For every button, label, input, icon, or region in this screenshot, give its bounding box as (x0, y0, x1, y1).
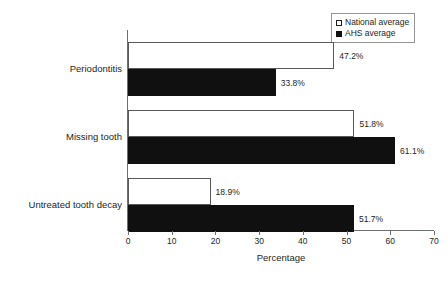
x-axis-tick (390, 231, 391, 235)
x-axis-tick-label: 50 (342, 237, 351, 246)
bar-ahs-average (128, 205, 354, 232)
x-axis-title: Percentage (128, 252, 434, 263)
bar-group: Untreated tooth decay18.9%51.7% (128, 178, 434, 232)
x-axis-tick (215, 231, 216, 235)
x-axis-tick-label: 0 (126, 237, 131, 246)
legend-item-national-average: National average (336, 17, 409, 28)
bar-value-label: 51.7% (359, 215, 383, 224)
x-axis-tick-label: 60 (386, 237, 395, 246)
x-axis-tick-label: 30 (254, 237, 263, 246)
x-axis-tick (259, 231, 260, 235)
bar-value-label: 33.8% (281, 79, 305, 88)
x-axis-tick-label: 20 (211, 237, 220, 246)
category-label: Periodontitis (4, 64, 122, 74)
bar-value-label: 51.8% (359, 120, 383, 129)
x-axis-tick (128, 231, 129, 235)
bar-value-label: 61.1% (400, 147, 424, 156)
x-axis-tick (434, 231, 435, 235)
bar-value-label: 47.2% (339, 52, 363, 61)
bar-value-label: 18.9% (216, 188, 240, 197)
x-axis-tick (303, 231, 304, 235)
bar-group: Missing tooth51.8%61.1% (128, 110, 434, 164)
bar-group: Periodontitis47.2%33.8% (128, 42, 434, 96)
x-axis-tick-label: 10 (167, 237, 176, 246)
legend-label-national-average: National average (345, 17, 409, 28)
plot-area: Periodontitis47.2%33.8%Missing tooth51.8… (128, 30, 434, 230)
x-axis-tick (347, 231, 348, 235)
x-axis-tick-label: 40 (298, 237, 307, 246)
x-axis-tick (172, 231, 173, 235)
open-square-icon (336, 20, 342, 26)
bar-chart: National average AHS average Periodontit… (0, 0, 447, 282)
category-label: Missing tooth (4, 132, 122, 142)
bar-national-average (128, 42, 334, 69)
x-axis-tick-label: 70 (429, 237, 438, 246)
bar-ahs-average (128, 69, 276, 96)
category-label: Untreated tooth decay (4, 200, 122, 210)
bar-ahs-average (128, 137, 395, 164)
bar-national-average (128, 110, 354, 137)
bar-national-average (128, 178, 211, 205)
